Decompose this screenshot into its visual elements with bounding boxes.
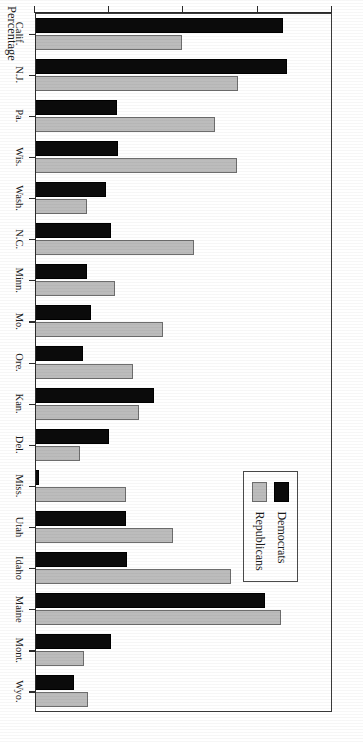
category-label-mont: Mont. xyxy=(14,638,25,663)
category-tick xyxy=(29,198,35,199)
category-label-wis: Wis. xyxy=(14,147,25,166)
chart-figure: Percentage 05101520 Calif.N.J.Pa.Wis.Was… xyxy=(0,0,363,742)
category-label-minn: Minn. xyxy=(14,268,25,293)
bar-republicans-mo xyxy=(35,322,163,337)
bar-democrats-maine xyxy=(35,593,265,608)
category-axis-line xyxy=(35,13,36,712)
bar-republicans-kan xyxy=(35,405,139,420)
category-label-idaho: Idaho xyxy=(14,556,25,580)
category-tick xyxy=(29,363,35,364)
bar-republicans-wyo xyxy=(35,692,88,707)
bar-republicans-calif xyxy=(35,35,182,50)
bar-democrats-nj xyxy=(35,59,287,74)
bar-republicans-del xyxy=(35,446,80,461)
value-tick-20 xyxy=(331,6,332,13)
bar-democrats-pa xyxy=(35,100,117,115)
category-tick xyxy=(29,34,35,35)
bar-democrats-nc xyxy=(35,223,111,238)
category-tick xyxy=(29,280,35,281)
bar-republicans-wash xyxy=(35,199,87,214)
category-label-calif: Calif. xyxy=(14,22,25,46)
category-tick xyxy=(29,527,35,528)
bar-republicans-mont xyxy=(35,651,84,666)
category-tick xyxy=(29,486,35,487)
value-tick-15 xyxy=(257,6,258,13)
category-tick xyxy=(29,116,35,117)
chart-legend: Democrats Republicans xyxy=(243,471,298,581)
category-tick xyxy=(29,75,35,76)
category-tick xyxy=(29,609,35,610)
legend-entry-democrats: Democrats xyxy=(274,482,289,570)
value-tick-0 xyxy=(34,6,35,13)
value-axis: 05101520 xyxy=(35,0,332,13)
category-label-kan: Kan. xyxy=(14,394,25,414)
bar-democrats-wis xyxy=(35,141,118,156)
bar-democrats-wyo xyxy=(35,675,74,690)
bar-democrats-del xyxy=(35,429,109,444)
value-tick-10 xyxy=(182,6,183,13)
legend-label-republicans: Republicans xyxy=(252,511,267,570)
bar-democrats-idaho xyxy=(35,552,127,567)
category-label-mo: Mo. xyxy=(14,313,25,330)
bar-republicans-miss xyxy=(35,487,126,502)
bar-democrats-mont xyxy=(35,634,111,649)
category-tick xyxy=(29,321,35,322)
bar-democrats-minn xyxy=(35,264,87,279)
bar-republicans-idaho xyxy=(35,569,231,584)
category-label-maine: Maine xyxy=(14,596,25,623)
category-label-nj: N.J. xyxy=(14,66,25,83)
bar-republicans-wis xyxy=(35,158,237,173)
legend-swatch-democrats xyxy=(274,482,289,502)
bar-republicans-nj xyxy=(35,76,238,91)
bar-republicans-pa xyxy=(35,117,215,132)
category-tick xyxy=(29,404,35,405)
category-tick xyxy=(29,157,35,158)
bar-republicans-minn xyxy=(35,281,115,296)
category-tick xyxy=(29,650,35,651)
category-label-utah: Utah xyxy=(14,517,25,537)
category-label-wyo: Wyo. xyxy=(14,680,25,702)
category-label-ore: Ore. xyxy=(14,353,25,371)
category-label-pa: Pa. xyxy=(14,109,25,122)
category-tick xyxy=(29,568,35,569)
bar-democrats-wash xyxy=(35,182,106,197)
plot-area xyxy=(35,13,332,712)
category-label-miss: Miss. xyxy=(14,474,25,497)
bar-republicans-ore xyxy=(35,364,133,379)
category-tick xyxy=(29,691,35,692)
rotated-chart-canvas: Percentage 05101520 Calif.N.J.Pa.Wis.Was… xyxy=(0,0,363,742)
legend-entry-republicans: Republicans xyxy=(252,482,267,570)
bar-republicans-nc xyxy=(35,240,194,255)
bar-republicans-utah xyxy=(35,528,173,543)
category-label-del: Del. xyxy=(14,436,25,454)
bar-democrats-ore xyxy=(35,346,83,361)
value-tick-5 xyxy=(108,6,109,13)
category-tick xyxy=(29,445,35,446)
bar-democrats-mo xyxy=(35,305,91,320)
bar-series-container xyxy=(35,13,332,712)
bar-democrats-calif xyxy=(35,18,283,33)
category-tick xyxy=(29,239,35,240)
category-label-nc: N.C. xyxy=(14,229,25,249)
category-label-wash: Wash. xyxy=(14,185,25,211)
legend-swatch-republicans xyxy=(252,482,267,502)
bar-democrats-utah xyxy=(35,511,126,526)
legend-label-democrats: Democrats xyxy=(274,511,289,563)
bar-democrats-kan xyxy=(35,388,154,403)
bar-republicans-maine xyxy=(35,610,282,625)
